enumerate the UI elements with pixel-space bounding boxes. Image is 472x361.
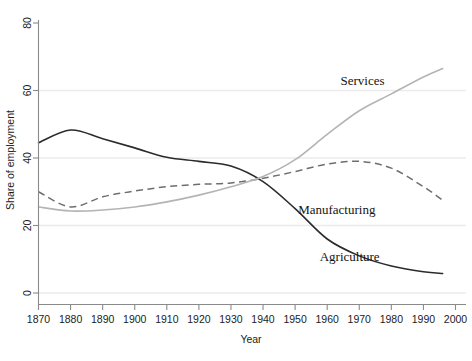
x-tick-label-2000: 2000 bbox=[444, 313, 468, 325]
x-tick-label-1910: 1910 bbox=[155, 313, 179, 325]
x-tick-label-1940: 1940 bbox=[251, 313, 275, 325]
y-ticks-group: 020406080 bbox=[21, 17, 39, 296]
y-tick-label-20: 20 bbox=[21, 220, 33, 232]
y-tick-label-80: 80 bbox=[21, 17, 33, 29]
series-line-agriculture bbox=[39, 130, 443, 273]
series-label-services: Services bbox=[340, 73, 384, 88]
chart-canvas: 020406080 187018801890190019101920193019… bbox=[0, 0, 472, 361]
x-tick-label-1930: 1930 bbox=[219, 313, 243, 325]
x-tick-label-1900: 1900 bbox=[123, 313, 147, 325]
x-tick-label-1880: 1880 bbox=[59, 313, 83, 325]
x-tick-label-1960: 1960 bbox=[316, 313, 340, 325]
x-tick-label-1870: 1870 bbox=[27, 313, 51, 325]
x-tick-label-1890: 1890 bbox=[91, 313, 115, 325]
x-tick-label-1970: 1970 bbox=[348, 313, 372, 325]
y-tick-label-40: 40 bbox=[21, 152, 33, 164]
x-tick-label-1990: 1990 bbox=[412, 313, 436, 325]
series-labels-group: AgricultureManufacturingServices bbox=[298, 73, 384, 264]
y-tick-label-0: 0 bbox=[21, 290, 33, 296]
y-tick-label-60: 60 bbox=[21, 85, 33, 97]
x-tick-label-1920: 1920 bbox=[187, 313, 211, 325]
axes-group bbox=[39, 20, 467, 305]
x-tick-label-1950: 1950 bbox=[283, 313, 307, 325]
y-axis-title: Share of employment bbox=[4, 110, 16, 210]
x-ticks-group: 1870188018901900191019201930194019501960… bbox=[27, 305, 468, 326]
x-tick-label-1980: 1980 bbox=[380, 313, 404, 325]
gridlines-group bbox=[39, 91, 467, 294]
series-label-manufacturing: Manufacturing bbox=[298, 202, 376, 217]
series-label-agriculture: Agriculture bbox=[320, 249, 380, 264]
x-axis-title: Year bbox=[240, 333, 262, 345]
employment-share-line-chart: 020406080 187018801890190019101920193019… bbox=[0, 0, 472, 361]
series-lines-group bbox=[39, 69, 443, 274]
